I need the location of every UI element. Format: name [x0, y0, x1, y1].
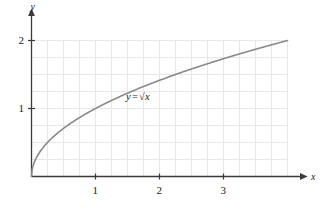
square-root-plot: [0, 0, 326, 210]
x-axis-label: x: [311, 172, 315, 182]
figure-container: 2 1 1 2 3 y x y=√x: [0, 0, 326, 210]
x-tick-label-2: 2: [157, 185, 163, 196]
y-tick-label-2: 2: [19, 35, 25, 46]
x-tick-label-3: 3: [221, 185, 227, 196]
radicand: x: [145, 91, 151, 102]
grid-lines: [32, 41, 288, 177]
radicand-text: x: [145, 91, 150, 102]
curve-equation-label: y=√x: [126, 92, 151, 103]
y-axis-label: y: [31, 2, 35, 12]
equation-lhs: y: [126, 91, 131, 102]
tick-marks: [28, 41, 224, 180]
axes: [28, 9, 307, 180]
equation-equals: =: [132, 91, 138, 102]
radical-group: √x: [139, 92, 151, 103]
x-tick-label-1: 1: [93, 185, 99, 196]
y-tick-label-1: 1: [19, 103, 25, 114]
x-axis-arrowhead-icon: [300, 173, 308, 180]
